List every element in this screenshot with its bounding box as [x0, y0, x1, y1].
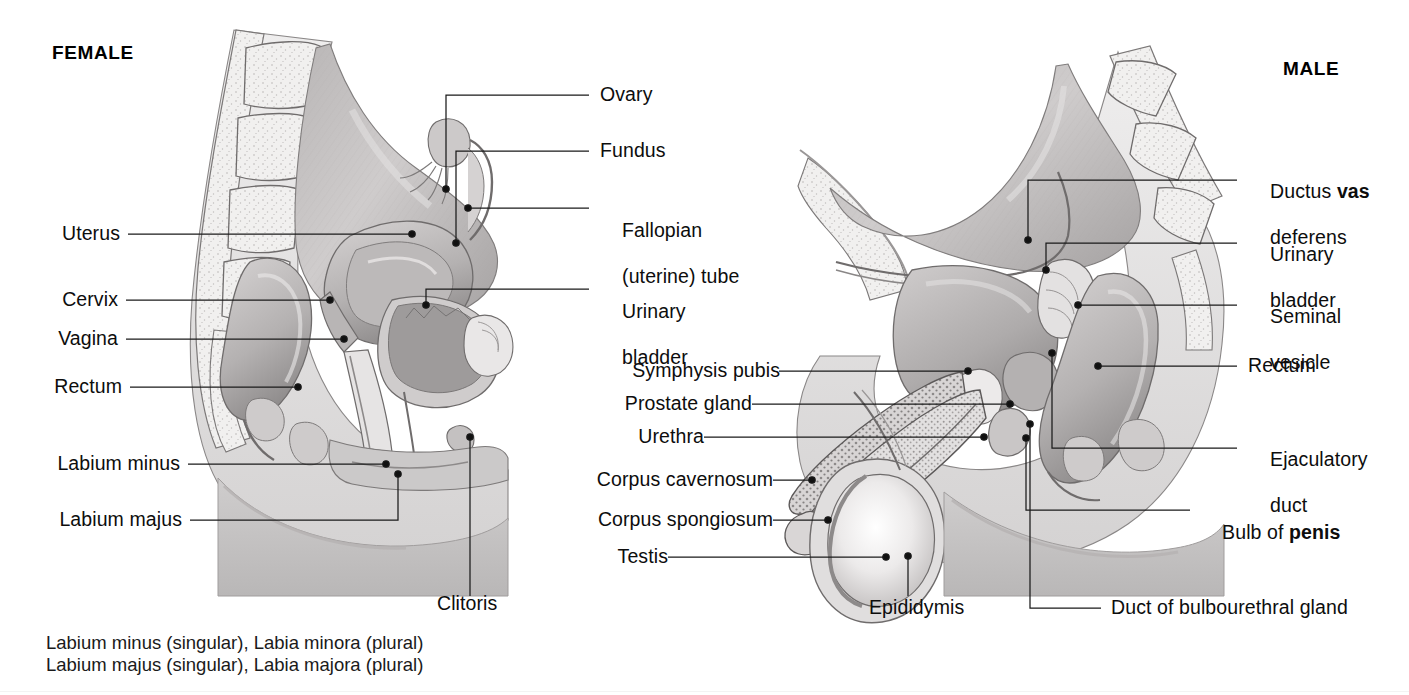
anatomy-figure: FEMALE MALE Uterus Cervix Vagina Rectum …: [0, 0, 1409, 695]
female-section: [190, 30, 513, 596]
label-labium-minus: Labium minus: [0, 452, 180, 475]
anatomy-illustration: [0, 0, 1409, 695]
label-bulb-of-penis: Bulb of penis: [1200, 498, 1340, 567]
female-title: FEMALE: [52, 42, 134, 64]
label-corpus-cavernosum: Corpus cavernosum: [520, 468, 773, 491]
label-bulb-penis: penis: [1289, 521, 1340, 543]
label-epididymis: Epididymis: [869, 596, 964, 619]
label-labium-majus: Labium majus: [0, 508, 182, 531]
bottom-rule: [0, 691, 1409, 692]
label-ovary: Ovary: [600, 83, 653, 106]
label-ejaculatory-line1: Ejaculatory: [1270, 448, 1368, 470]
footnote-labium-minus: Labium minus (singular), Labia minora (p…: [46, 632, 423, 654]
label-fundus: Fundus: [600, 139, 666, 162]
label-prostate-gland: Prostate gland: [530, 392, 752, 415]
label-urethra: Urethra: [530, 425, 704, 448]
label-fallopian-line1: Fallopian: [622, 219, 702, 241]
male-title: MALE: [1283, 58, 1339, 80]
label-symphysis-pubis: Symphysis pubis: [530, 359, 780, 382]
label-rectum: Rectum: [0, 375, 122, 398]
label-clitoris: Clitoris: [437, 592, 497, 615]
label-bulb-prefix: Bulb of: [1222, 521, 1289, 543]
label-ductus-prefix: Ductus: [1270, 180, 1337, 202]
label-rectum-male: Rectum: [1248, 354, 1316, 377]
label-urinary-bladder-male-line1: Urinary: [1270, 243, 1334, 265]
label-duct-of-bulbourethral-gland: Duct of bulbourethral gland: [1111, 596, 1348, 619]
label-urinary-bladder-female-line1: Urinary: [622, 300, 686, 322]
label-ductus-vas: vas: [1337, 180, 1370, 202]
label-cervix: Cervix: [0, 288, 118, 311]
male-section: [785, 46, 1224, 623]
footnote-labium-majus: Labium majus (singular), Labia majora (p…: [46, 654, 423, 676]
label-uterus: Uterus: [0, 222, 120, 245]
label-testis: Testis: [520, 545, 668, 568]
label-corpus-spongiosum: Corpus spongiosum: [520, 508, 773, 531]
label-seminal-vesicle: Seminal vesicle: [1248, 282, 1341, 397]
label-seminal-line1: Seminal: [1270, 305, 1341, 327]
label-vagina: Vagina: [0, 327, 118, 350]
